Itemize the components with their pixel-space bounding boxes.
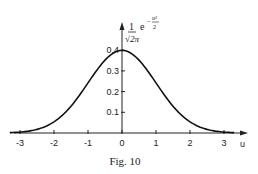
formula-denominator: √2π xyxy=(125,34,139,44)
x-tick-label: 0 xyxy=(119,138,124,148)
x-tick-label: -1 xyxy=(84,138,92,148)
normal-distribution-chart: -3-2-10123 0.10.20.30.4 u 1 √2π e − u² 2… xyxy=(0,0,258,174)
formula-minus: − xyxy=(147,18,151,26)
y-tick-label: 0.2 xyxy=(106,87,119,97)
x-tick-label: 1 xyxy=(153,138,158,148)
x-tick-label: -3 xyxy=(16,138,24,148)
y-axis-formula: 1 √2π e − u² 2 xyxy=(125,15,159,44)
formula-base: e xyxy=(140,21,145,32)
x-tick-label: 2 xyxy=(187,138,192,148)
formula-exponent-den: 2 xyxy=(153,24,156,30)
y-axis xyxy=(120,22,125,133)
x-tick-label: -2 xyxy=(50,138,58,148)
x-tick-label: 3 xyxy=(221,138,226,148)
y-tick-label: 0.3 xyxy=(106,66,119,76)
formula-exponent-num: u² xyxy=(152,15,157,21)
x-axis-arrow-icon xyxy=(240,131,248,136)
y-axis-arrow-icon xyxy=(120,22,125,30)
formula-numerator: 1 xyxy=(129,21,134,32)
figure-caption: Fig. 10 xyxy=(109,155,141,167)
y-tick-label: 0.1 xyxy=(106,107,119,117)
x-axis-label: u xyxy=(240,139,245,149)
